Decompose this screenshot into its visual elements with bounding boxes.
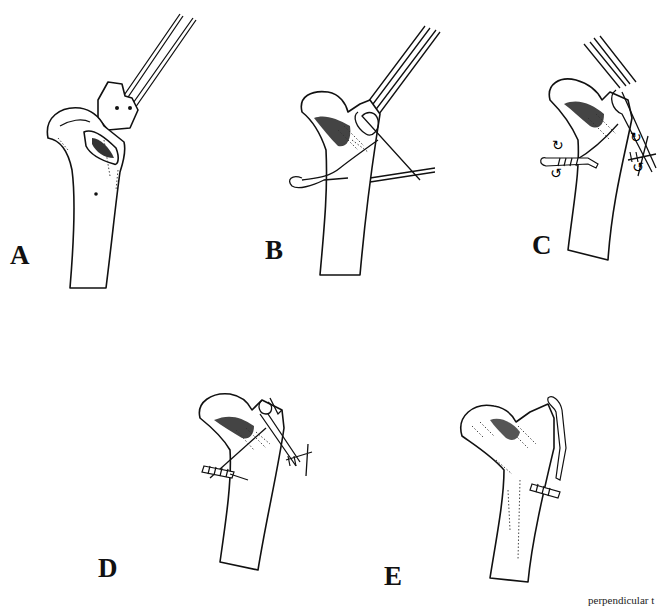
completed-knots-illustration <box>170 370 350 601</box>
panel-c: ↻ ↺ ↻ ↺ C <box>480 0 667 290</box>
panel-label-b: B <box>265 237 283 264</box>
panel-b: B <box>240 0 480 290</box>
humerus-fragment-kwires-illustration <box>0 0 220 290</box>
panel-label-a: A <box>10 242 30 269</box>
panel-d: D <box>170 370 350 601</box>
panel-label-d: D <box>98 555 118 582</box>
rotation-arrow-icon: ↻ <box>630 129 642 145</box>
figure-caption-fragment: perpendicular t <box>588 594 667 606</box>
rotation-arrow-icon: ↺ <box>550 165 562 181</box>
panel-label-e: E <box>384 563 402 590</box>
panel-label-c: C <box>532 232 552 259</box>
panel-e: E <box>420 360 620 601</box>
rotation-arrow-icon: ↺ <box>632 159 644 175</box>
panel-a: A <box>0 0 220 290</box>
figure-of-eight-tensioning-illustration: ↻ ↺ ↻ ↺ <box>480 0 667 290</box>
final-construct-illustration <box>420 360 620 601</box>
rotation-arrow-icon: ↻ <box>552 137 564 153</box>
